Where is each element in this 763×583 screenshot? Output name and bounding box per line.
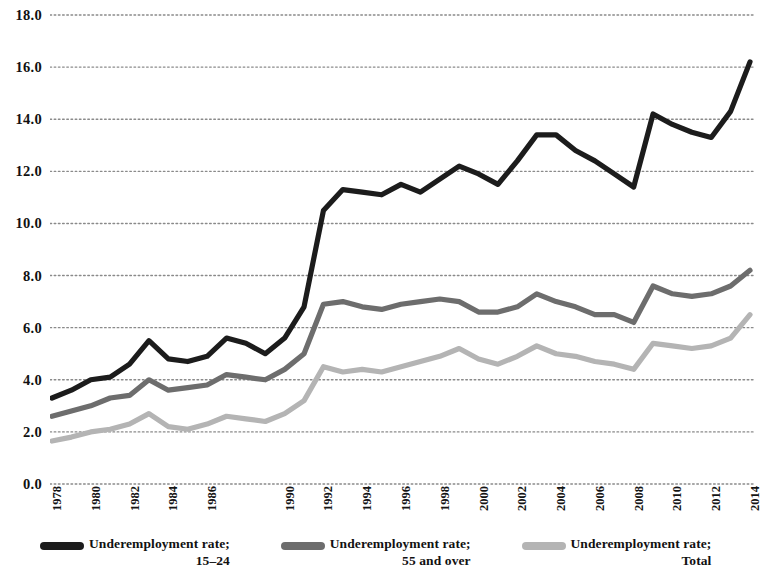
legend-swatch-total [522,542,566,550]
legend-label-line1: Underemployment rate; [330,536,471,551]
series-line [52,315,750,441]
legend-label: Underemployment rate;15–24 [89,536,230,570]
y-axis-tick-label: 4.0 [23,371,42,388]
y-axis-tick-label: 0.0 [23,476,42,493]
x-axis-tick-label: 1998 [437,486,452,511]
x-axis-tick-label: 1986 [205,486,220,511]
chart-legend: Underemployment rate;15–24Underemploymen… [40,536,763,583]
legend-swatch-55-over [281,542,325,550]
x-axis-tick-label: 2014 [748,486,763,511]
x-axis-tick-label: 1996 [399,486,414,511]
x-axis-tick-label: 2010 [670,486,685,511]
x-axis-tick-label: 1992 [321,486,336,511]
x-axis: 1978198019821984198619901992199419961998… [50,484,755,536]
legend-label-line2: 15–24 [89,553,230,570]
x-axis-tick-label: 1980 [88,486,103,511]
y-axis-tick-label: 2.0 [23,423,42,440]
plot-svg [50,0,755,500]
x-axis-tick-label: 1990 [282,486,297,511]
x-axis-tick-label: 2008 [631,486,646,511]
x-axis-tick-label: 1978 [50,486,65,511]
y-axis-tick-label: 14.0 [15,111,42,128]
legend-label: Underemployment rate;55 and over [330,536,471,570]
legend-label: Underemployment rate;Total [571,536,712,570]
legend-swatch-15-24 [40,542,84,550]
series-line [52,270,750,416]
x-axis-tick-label: 2000 [476,486,491,511]
x-axis-tick-label: 2006 [592,486,607,511]
series-line [52,62,750,398]
y-axis-tick-label: 8.0 [23,267,42,284]
legend-item[interactable]: Underemployment rate;15–24 [40,536,281,570]
underemployment-rate-line-chart: 18.016.014.012.010.08.06.04.02.00.0 1978… [0,0,763,583]
y-axis-tick-label: 16.0 [15,59,42,76]
legend-item[interactable]: Underemployment rate;55 and over [281,536,522,570]
x-axis-tick-label: 2004 [554,486,569,511]
y-axis-tick-label: 10.0 [15,215,42,232]
y-axis: 18.016.014.012.010.08.06.04.02.00.0 [0,0,46,500]
y-axis-tick-label: 6.0 [23,319,42,336]
legend-label-line2: 55 and over [330,553,471,570]
x-axis-tick-label: 1994 [360,486,375,511]
legend-item[interactable]: Underemployment rate;Total [522,536,763,570]
y-axis-tick-label: 12.0 [15,163,42,180]
x-axis-tick-label: 2012 [709,486,724,511]
x-axis-tick-label: 1982 [127,486,142,511]
x-axis-tick-label: 2002 [515,486,530,511]
legend-label-line1: Underemployment rate; [571,536,712,551]
plot-area [50,0,755,500]
x-axis-tick-label: 1984 [166,486,181,511]
y-axis-tick-label: 18.0 [15,7,42,24]
legend-label-line1: Underemployment rate; [89,536,230,551]
legend-label-line2: Total [571,553,712,570]
